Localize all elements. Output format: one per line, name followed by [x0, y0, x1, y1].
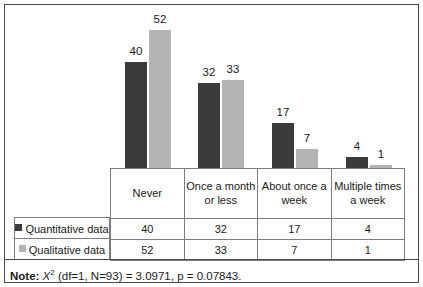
- bar-group-multiple-times-a-week: 4 1: [331, 5, 405, 168]
- bar-label-multiple-qualitative: 1: [378, 148, 384, 161]
- bar-label-never-qualitative: 52: [154, 13, 167, 26]
- legend-row-qualitative: Qualitative data: [15, 239, 110, 260]
- legend-cell-qualitative: Qualitative data: [15, 239, 110, 260]
- category-cell-multiple-times-a-week: Multiple times a week: [331, 169, 405, 219]
- legend-label-quantitative: Quantitative data: [25, 223, 108, 235]
- legend-row-quantitative: Quantitative data: [15, 218, 110, 239]
- legend-swatch-icon-qualitative: [19, 245, 26, 252]
- note-separator: [5, 259, 418, 260]
- category-cell-never: Never: [111, 169, 185, 219]
- bar-group-never: 40 52: [110, 5, 183, 168]
- bar-label-never-quantitative: 40: [130, 45, 143, 58]
- bar-group-once-a-month-or-less: 32 33: [183, 5, 257, 168]
- legend-cell-quantitative: Quantitative data: [15, 218, 110, 239]
- table-row-qualitative: 52 33 7 1: [111, 240, 405, 261]
- note-body: (df=1, N=93) = 3.0971, p = 0.07843.: [55, 270, 242, 282]
- bar-label-month-qualitative: 33: [227, 63, 240, 76]
- note-text: Note: X2 (df=1, N=93) = 3.0971, p = 0.07…: [10, 265, 410, 284]
- bar-label-week-qualitative: 7: [304, 132, 310, 145]
- note-label: Note:: [10, 270, 39, 282]
- value-cell-qualitative-never: 52: [111, 240, 185, 261]
- legend-label-qualitative: Qualitative data: [29, 244, 105, 256]
- chart-data-table: Never Once a month or less About once a …: [110, 168, 405, 261]
- bar-month-quantitative: [198, 83, 220, 168]
- value-cell-quantitative-never: 40: [111, 219, 185, 240]
- table-row-quantitative: 40 32 17 4: [111, 219, 405, 240]
- bar-never-quantitative: [125, 62, 147, 168]
- value-cell-qualitative-multiple: 1: [331, 240, 405, 261]
- value-cell-quantitative-month: 32: [184, 219, 258, 240]
- bar-month-qualitative: [222, 80, 244, 168]
- chart-legend: Quantitative data Qualitative data: [14, 217, 110, 260]
- category-cell-about-once-a-week: About once a week: [258, 169, 332, 219]
- bar-week-qualitative: [296, 149, 318, 168]
- bar-group-about-once-a-week: 17 7: [257, 5, 331, 168]
- bar-label-week-quantitative: 17: [277, 106, 290, 119]
- bar-label-month-quantitative: 32: [203, 66, 216, 79]
- bar-week-quantitative: [272, 123, 294, 168]
- bar-multiple-quantitative: [346, 157, 368, 168]
- bar-label-multiple-quantitative: 4: [354, 140, 360, 153]
- value-cell-quantitative-multiple: 4: [331, 219, 405, 240]
- bar-never-qualitative: [149, 30, 171, 168]
- value-cell-quantitative-week: 17: [258, 219, 332, 240]
- table-row-categories: Never Once a month or less About once a …: [111, 169, 405, 219]
- category-cell-once-a-month-or-less: Once a month or less: [184, 169, 258, 219]
- legend-swatch-icon-quantitative: [15, 224, 22, 231]
- figure-container: 40 52 32 33 17: [0, 0, 423, 287]
- value-cell-qualitative-week: 7: [258, 240, 332, 261]
- value-cell-qualitative-month: 33: [184, 240, 258, 261]
- bar-chart-plot-area: 40 52 32 33 17: [5, 5, 418, 168]
